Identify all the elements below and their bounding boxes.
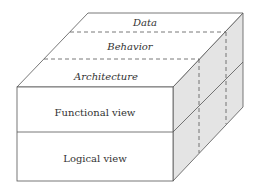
cube-diagram: Data Behavior Architecture Functional vi…	[0, 0, 259, 196]
label-logical-view: Logical view	[63, 153, 127, 164]
label-data: Data	[132, 17, 157, 28]
label-architecture: Architecture	[73, 71, 138, 82]
label-behavior: Behavior	[106, 41, 154, 52]
cube-front-face	[17, 87, 173, 181]
label-functional-view: Functional view	[55, 107, 136, 118]
